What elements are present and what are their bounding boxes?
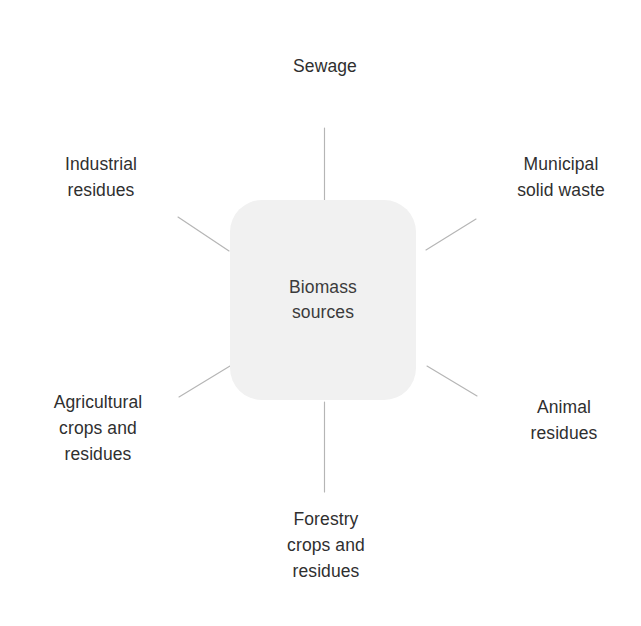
node-label-municipal-solid-waste: Municipal solid waste	[480, 152, 641, 204]
hub-node-label: Biomass sources	[289, 275, 357, 326]
node-label-sewage: Sewage	[245, 54, 405, 80]
node-label-agricultural-crops-and-residues: Agricultural crops and residues	[16, 390, 180, 468]
hub-node-biomass-sources: Biomass sources	[230, 200, 416, 400]
node-label-forestry-crops-and-residues: Forestry crops and residues	[245, 507, 407, 585]
connector-line-municipal-solid-waste	[426, 219, 476, 250]
connector-line-animal-residues	[427, 366, 477, 396]
node-label-industrial-residues: Industrial residues	[20, 152, 182, 204]
biomass-sources-diagram: Biomass sources Sewage Industrial residu…	[0, 0, 641, 626]
connector-line-agricultural-crops-and-residues	[179, 366, 230, 397]
connector-line-industrial-residues	[178, 217, 229, 251]
node-label-animal-residues: Animal residues	[484, 395, 641, 447]
